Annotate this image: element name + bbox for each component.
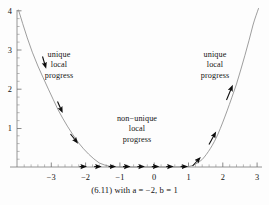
figure-container: −3 −2 −1 0 1 2 3 1 2 3 4 — [0, 0, 269, 205]
annotation-middle-non-unique-local-progress: non−unique local progress — [100, 114, 174, 145]
y-tick-label: 1 — [8, 124, 12, 133]
x-tick-label: 3 — [255, 173, 259, 182]
annotation-left-line3: progress — [28, 71, 90, 81]
x-tick-label: 2 — [221, 173, 225, 182]
x-tick-label: 1 — [186, 173, 190, 182]
x-tick-label: −2 — [81, 173, 90, 182]
x-tick-label: 0 — [152, 173, 156, 182]
x-tick-label: −1 — [115, 173, 124, 182]
annotation-middle-line1: non−unique — [100, 114, 174, 124]
annotation-right-line3: progress — [184, 71, 246, 81]
plot-canvas: −3 −2 −1 0 1 2 3 1 2 3 4 — [0, 0, 269, 205]
y-tick-label: 2 — [8, 85, 12, 94]
annotation-right-line2: local — [184, 60, 246, 70]
annotation-right-line1: unique — [184, 50, 246, 60]
x-tick-label: −3 — [47, 173, 56, 182]
annotation-left-line1: unique — [28, 50, 90, 60]
plot-background — [0, 0, 269, 205]
y-tick-label: 3 — [8, 46, 12, 55]
annotation-left-unique-local-progress: unique local progress — [28, 50, 90, 81]
annotation-middle-line2: local — [100, 124, 174, 134]
figure-caption: (6.11) with a = −2, b = 1 — [0, 185, 269, 195]
annotation-left-line2: local — [28, 60, 90, 70]
annotation-right-unique-local-progress: unique local progress — [184, 50, 246, 81]
annotation-middle-line3: progress — [100, 135, 174, 145]
